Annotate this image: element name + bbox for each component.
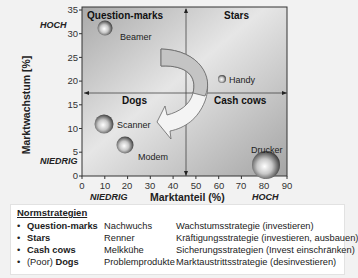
y-tick: 5	[62, 146, 78, 157]
bubble-beamer	[98, 21, 113, 36]
table-title: Normstrategien	[17, 207, 87, 218]
strategy-description: Wachstumsstrategie (investieren)	[176, 221, 314, 231]
bullet-icon: •	[17, 221, 20, 231]
x-tick: 30	[145, 180, 156, 191]
strategy-alias: Problemprodukte	[104, 257, 175, 267]
strategy-name: Cash cows	[27, 245, 76, 255]
bubble-handy	[218, 75, 226, 83]
y-tick: 0	[62, 170, 78, 181]
bubble-label-modem: Modem	[138, 152, 168, 162]
x-tick: 40	[168, 180, 179, 191]
bubble-drucker	[252, 151, 280, 179]
strategy-prefix: (Poor)	[27, 257, 55, 267]
x-tick: 80	[259, 180, 270, 191]
bubble-label-drucker: Drucker	[251, 145, 283, 155]
y-tick: 20	[62, 75, 78, 86]
strategy-alias: Nachwuchs	[104, 221, 152, 231]
y-tick: 10	[62, 123, 78, 134]
y-axis-title: Marktwachstum [%]	[20, 50, 34, 160]
strategy-alias: Melkkühe	[104, 245, 144, 255]
quadrant-dogs: Dogs	[122, 95, 147, 106]
y-tick: 15	[62, 99, 78, 110]
y-tick: 35	[62, 4, 78, 15]
x-tick: 90	[282, 180, 293, 191]
bullet-icon: •	[17, 257, 20, 267]
strategy-alias: Renner	[104, 233, 135, 243]
bubble-label-scanner: Scanner	[117, 120, 151, 130]
strategy-description: Kräftigungsstrategie (investieren, ausba…	[176, 233, 358, 243]
x-tick: 50	[191, 180, 202, 191]
strategy-name: (Poor) Dogs	[27, 257, 79, 267]
strategy-name-bold: Dogs	[55, 257, 78, 267]
x-tick: 60	[214, 180, 225, 191]
quadrant-cash-cows: Cash cows	[214, 95, 266, 106]
x-low-label: NIEDRIG	[90, 192, 128, 202]
bubble-scanner	[95, 115, 114, 134]
strategy-description: Sicherungsstrategien (Invest einschränke…	[176, 245, 355, 255]
strategy-name: Stars	[27, 233, 50, 243]
norm-strategies-table: Normstrategien • Question-marks Nachwuch…	[10, 204, 345, 275]
x-tick: 10	[100, 180, 111, 191]
x-tick: 0	[79, 180, 84, 191]
quadrant-question-marks: Question-marks	[87, 10, 163, 21]
quadrant-stars: Stars	[224, 10, 249, 21]
bullet-icon: •	[17, 233, 20, 243]
bubble-label-beamer: Beamer	[120, 32, 152, 42]
x-high-label: HOCH	[252, 192, 279, 202]
strategy-description: Marktaustrittsstrategie (desinvestieren)	[176, 257, 336, 267]
strategy-name: Question-marks	[27, 221, 98, 231]
bubble-label-handy: Handy	[229, 75, 255, 85]
y-tick: 30	[62, 28, 78, 39]
portfolio-chart	[0, 0, 347, 205]
bubble-modem	[117, 137, 134, 154]
x-tick: 20	[122, 180, 133, 191]
bullet-icon: •	[17, 245, 20, 255]
x-axis-title: Marktanteil (%)	[150, 191, 225, 203]
x-tick: 70	[236, 180, 247, 191]
y-tick: 25	[62, 52, 78, 63]
y-low-label: NIEDRIG	[40, 156, 78, 166]
